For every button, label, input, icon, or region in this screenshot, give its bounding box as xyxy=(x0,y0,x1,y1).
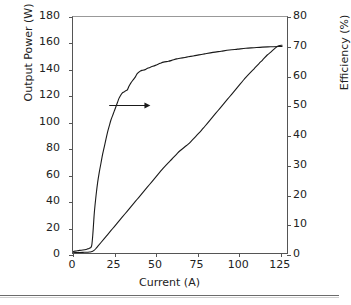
axis-tick-label: 50 xyxy=(293,99,333,110)
footer-divider xyxy=(0,295,339,296)
axis-tick-label: 40 xyxy=(20,195,60,206)
axis-tick-label: 60 xyxy=(20,169,60,180)
axis-tick-label: 80 xyxy=(20,142,60,153)
axis-tick-label: 60 xyxy=(293,70,333,81)
axis-tick xyxy=(156,253,157,257)
axis-tick xyxy=(69,202,73,203)
axis-tick xyxy=(69,176,73,177)
axis-tick xyxy=(69,43,73,44)
axis-tick xyxy=(287,196,291,197)
axis-tick-label: 30 xyxy=(293,159,333,170)
axis-tick xyxy=(287,136,291,137)
axis-tick-label: 25 xyxy=(94,259,134,270)
axis-tick xyxy=(73,253,74,257)
axis-tick xyxy=(287,225,291,226)
axis-tick xyxy=(69,149,73,150)
axis-tick-label: 0 xyxy=(293,248,333,259)
axis-tick-label: 50 xyxy=(135,259,175,270)
axis-tick-label: 70 xyxy=(293,40,333,51)
axis-tick-label: 20 xyxy=(20,222,60,233)
series-line-output-power xyxy=(73,45,282,253)
axis-tick-label: 100 xyxy=(218,259,258,270)
axis-tick xyxy=(115,253,116,257)
curves-layer xyxy=(73,17,287,253)
axis-tick xyxy=(287,106,291,107)
plot-area xyxy=(72,16,288,254)
axis-tick-label: 80 xyxy=(293,10,333,21)
axis-tick xyxy=(287,17,291,18)
axis-tick xyxy=(239,253,240,257)
axis-tick-label: 20 xyxy=(293,189,333,200)
axis-tick xyxy=(287,255,291,256)
axis-tick-label: 0 xyxy=(20,248,60,259)
axis-tick-label: 0 xyxy=(52,259,92,270)
y-axis-right-title: Efficiency (%) xyxy=(338,0,351,133)
axis-tick-label: 125 xyxy=(260,259,300,270)
axis-tick xyxy=(198,253,199,257)
series-line-efficiency xyxy=(73,46,282,251)
axis-tick xyxy=(69,123,73,124)
y-axis-left-title: Output Power (W) xyxy=(22,0,35,133)
axis-tick xyxy=(287,166,291,167)
axis-tick-label: 10 xyxy=(293,218,333,229)
axis-tick xyxy=(69,229,73,230)
axis-tick xyxy=(281,253,282,257)
axis-tick-label: 40 xyxy=(293,129,333,140)
axis-tick xyxy=(69,70,73,71)
axis-tick xyxy=(287,47,291,48)
x-axis-title: Current (A) xyxy=(0,276,339,289)
axis-tick xyxy=(287,77,291,78)
footer-divider-shadow xyxy=(0,297,339,298)
axis-tick xyxy=(69,96,73,97)
axis-tick-label: 75 xyxy=(177,259,217,270)
axis-tick xyxy=(69,17,73,18)
